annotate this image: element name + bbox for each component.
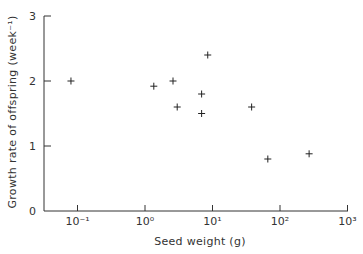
y-tick-label: 0 <box>29 205 36 218</box>
plus-marker <box>198 91 205 98</box>
plus-marker <box>170 78 177 85</box>
plus-marker <box>67 78 74 85</box>
y-ticks: 0123 <box>29 10 51 218</box>
x-tick-label: 10⁻¹ <box>65 215 89 228</box>
plus-marker <box>174 104 181 111</box>
scatter-chart: 10⁻¹10⁰10¹10²10³ 0123 Seed weight (g) Gr… <box>0 0 363 254</box>
y-tick-label: 1 <box>29 140 36 153</box>
y-tick-label: 2 <box>29 75 36 88</box>
x-ticks: 10⁻¹10⁰10¹10²10³ <box>65 205 356 228</box>
plus-marker <box>150 83 157 90</box>
x-tick-label: 10¹ <box>203 215 221 228</box>
y-tick-label: 3 <box>29 10 36 23</box>
x-axis-title: Seed weight (g) <box>154 235 246 248</box>
plus-marker <box>198 110 205 117</box>
axes <box>44 16 348 211</box>
x-tick-label: 10² <box>271 215 289 228</box>
plus-marker <box>306 150 313 157</box>
plus-marker <box>248 104 255 111</box>
plus-marker <box>264 156 271 163</box>
data-points <box>67 52 312 163</box>
plus-marker <box>204 52 211 59</box>
x-tick-label: 10³ <box>338 215 356 228</box>
y-axis-title: Growth rate of offspring (week⁻¹) <box>6 15 19 208</box>
x-tick-label: 10⁰ <box>136 215 155 228</box>
